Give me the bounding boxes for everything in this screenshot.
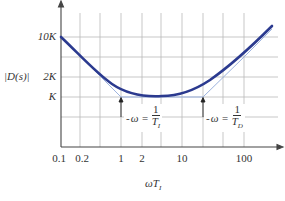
- annotation-omega-td: -ω = 1TD: [204, 104, 245, 132]
- x-tick-2: 2: [127, 152, 157, 164]
- x-axis-label: ωTI: [145, 177, 161, 192]
- x-tick-10: 10: [167, 152, 197, 164]
- x-tick-0.2: 0.2: [67, 152, 97, 164]
- y-tick-10k: 10K: [16, 30, 56, 42]
- x-tick-100: 100: [229, 152, 259, 164]
- y-tick-k: K: [16, 90, 56, 102]
- y-axis-label: |D(s)|: [4, 70, 30, 82]
- annotation-omega-ti: -ω = 1TI: [124, 104, 162, 132]
- axes: [59, 1, 284, 150]
- grid: [61, 13, 278, 147]
- asymptote-lines: [61, 29, 272, 97]
